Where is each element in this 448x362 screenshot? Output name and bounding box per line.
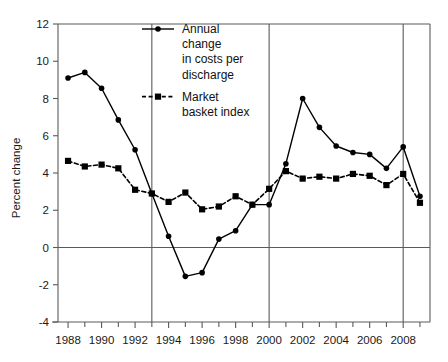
x-tick-label-1992: 1992 (122, 334, 148, 346)
data-point-market-basket-index-2009 (417, 200, 423, 206)
data-point-annual-change-2009 (417, 193, 423, 199)
data-point-annual-change-1998 (233, 228, 239, 234)
y-tick-label-4: 4 (43, 167, 50, 179)
data-point-market-basket-index-1992 (132, 187, 138, 193)
y-tick-label-12: 12 (36, 18, 49, 30)
x-axis-tick-labels: 1988199019921994199619982000200220042006… (55, 334, 416, 346)
data-point-market-basket-index-2000 (266, 186, 272, 192)
y-tick-label-8: 8 (43, 93, 49, 105)
legend-label-0-line-3: discharge (182, 68, 234, 82)
data-point-market-basket-index-1998 (233, 193, 239, 199)
y-tick-label--2: -2 (39, 279, 49, 291)
data-point-annual-change-2007 (384, 166, 390, 172)
data-point-annual-change-1990 (99, 85, 105, 91)
y-axis-title: Percent change (10, 138, 22, 219)
data-point-market-basket-index-2004 (333, 175, 339, 181)
data-point-annual-change-2008 (400, 144, 406, 150)
x-tick-label-2008: 2008 (390, 334, 416, 346)
data-point-market-basket-index-1995 (182, 189, 188, 195)
data-point-annual-change-1995 (183, 274, 189, 280)
x-tick-label-2002: 2002 (290, 334, 316, 346)
x-tick-label-1990: 1990 (89, 334, 115, 346)
data-point-market-basket-index-1988 (65, 158, 71, 164)
line-chart: 121086420-2-4 19881990199219941996199820… (0, 0, 448, 362)
legend-symbol-circle-marker (155, 26, 161, 32)
x-tick-label-2004: 2004 (323, 334, 349, 346)
legend-label-0-line-1: change (182, 37, 222, 51)
data-point-market-basket-index-2007 (383, 182, 389, 188)
data-point-market-basket-index-1994 (165, 199, 171, 205)
data-point-annual-change-2006 (367, 152, 373, 158)
x-tick-label-1994: 1994 (156, 334, 182, 346)
y-tick-label-6: 6 (43, 130, 49, 142)
data-point-annual-change-1988 (65, 75, 71, 81)
data-point-market-basket-index-1996 (199, 206, 205, 212)
x-tick-label-2000: 2000 (256, 334, 282, 346)
data-point-annual-change-1996 (199, 270, 205, 276)
data-point-market-basket-index-2008 (400, 171, 406, 177)
y-tick-label-0: 0 (43, 242, 49, 254)
y-tick-label-10: 10 (36, 55, 49, 67)
x-tick-label-1998: 1998 (223, 334, 249, 346)
data-point-market-basket-index-2002 (300, 175, 306, 181)
data-point-annual-change-2002 (300, 96, 306, 102)
legend-label-1-line-0: Market (182, 90, 219, 104)
data-point-market-basket-index-1997 (216, 203, 222, 209)
data-point-market-basket-index-2003 (316, 174, 322, 180)
data-point-annual-change-2001 (283, 161, 289, 167)
data-point-market-basket-index-1989 (82, 163, 88, 169)
data-point-annual-change-1999 (250, 202, 256, 208)
data-point-market-basket-index-1991 (115, 165, 121, 171)
legend-label-0-line-0: Annual (182, 22, 219, 36)
data-point-annual-change-1991 (116, 117, 122, 123)
data-point-market-basket-index-2005 (350, 171, 356, 177)
data-point-annual-change-1989 (82, 70, 88, 76)
x-tick-label-2006: 2006 (357, 334, 383, 346)
data-point-annual-change-2005 (350, 150, 356, 156)
data-point-annual-change-2000 (266, 202, 272, 208)
data-point-annual-change-1992 (132, 147, 138, 153)
x-tick-label-1988: 1988 (55, 334, 81, 346)
x-tick-label-1996: 1996 (189, 334, 215, 346)
legend-symbol-square-marker (155, 94, 161, 100)
data-point-annual-change-2004 (333, 143, 339, 149)
data-point-annual-change-2003 (317, 125, 323, 131)
legend-label-1-line-1: basket index (182, 105, 249, 119)
chart-container: 121086420-2-4 19881990199219941996199820… (0, 0, 448, 362)
data-point-market-basket-index-2006 (367, 173, 373, 179)
data-point-annual-change-1994 (166, 234, 172, 240)
data-point-annual-change-1997 (216, 236, 222, 242)
data-point-market-basket-index-1990 (98, 162, 104, 168)
y-tick-label-2: 2 (43, 204, 49, 216)
data-point-annual-change-1993 (149, 191, 155, 197)
y-tick-label--4: -4 (39, 316, 50, 328)
legend-label-0-line-2: in costs per (182, 52, 243, 66)
